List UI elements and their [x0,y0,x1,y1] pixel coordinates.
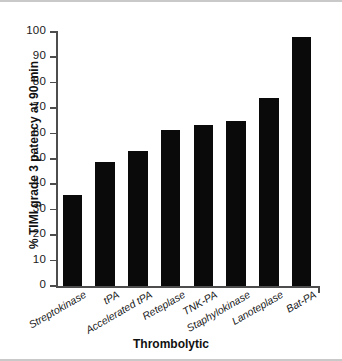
x-axis-tick-label: Streptokinase [27,288,89,331]
bar [128,151,148,286]
bar [95,162,115,286]
frame-rule-top [0,0,342,2]
y-axis-title: % TIMI grade 3 patency at 90 min [27,35,41,275]
bar [63,195,83,286]
x-axis-title: Thrombolytic [0,337,342,351]
x-axis-tick-label: Bat-PA [283,288,317,315]
bar [161,130,181,286]
figure-frame: 0102030405060708090100 StreptokinasetPAA… [0,0,342,361]
plot-area [56,32,318,286]
bar [292,37,312,286]
y-axis-tick-label: 0 [0,278,46,290]
bar [259,98,279,286]
bar [226,121,246,286]
bar [194,125,214,286]
